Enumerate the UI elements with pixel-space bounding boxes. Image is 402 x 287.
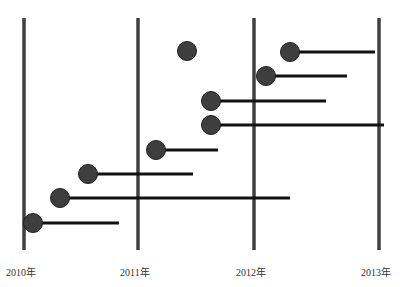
event-start-dot — [281, 43, 300, 62]
event-start-dot — [24, 214, 43, 233]
year-label: 2012年 — [236, 264, 266, 279]
year-label: 2011年 — [120, 264, 150, 279]
event-start-dot — [202, 116, 221, 135]
event-start-dot — [147, 141, 166, 160]
timeline-chart — [0, 0, 402, 287]
event-start-dot — [257, 67, 276, 86]
event-start-dot — [79, 165, 98, 184]
event-start-dot — [202, 92, 221, 111]
year-label: 2010年 — [6, 264, 36, 279]
year-label: 2013年 — [361, 264, 391, 279]
event-start-dot — [178, 42, 197, 61]
event-start-dot — [51, 189, 70, 208]
